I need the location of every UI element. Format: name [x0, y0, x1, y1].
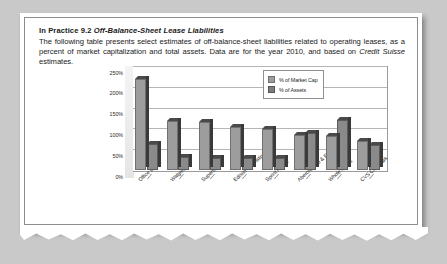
bar-market-cap	[199, 122, 210, 170]
y-tick-label: 100%	[110, 132, 123, 138]
bar-side-face	[146, 76, 149, 167]
body-text-part2: estimates.	[39, 57, 73, 66]
bar-side-face	[221, 155, 224, 167]
bar-side-face	[253, 155, 256, 167]
page-root: In Practice 9.2 Off-Balance-Sheet Lease …	[0, 0, 447, 264]
bar-front-face	[294, 135, 305, 170]
bar-side-face	[241, 124, 244, 167]
bar-front-face	[135, 79, 146, 170]
chart-legend: % of Market Cap % of Assets	[263, 70, 324, 99]
y-tick-label: 200%	[110, 90, 123, 96]
y-axis-labels: 250%200%150%100%50%0%	[95, 64, 125, 182]
bar-front-face	[167, 121, 178, 170]
bar-side-face	[337, 133, 340, 167]
legend-label-market-cap: % of Market Cap	[279, 77, 318, 83]
heading-title: Off-Balance-Sheet Lease Liabilities	[94, 26, 224, 35]
bar-market-cap	[167, 121, 178, 170]
bar-market-cap	[357, 141, 368, 170]
bar-front-face	[326, 136, 337, 170]
bar-market-cap	[230, 127, 241, 170]
bar-market-cap	[262, 129, 273, 170]
y-tick-label: 150%	[110, 111, 123, 117]
bar-side-face	[178, 118, 181, 167]
body-text-italic: Credit Suisse	[359, 47, 405, 56]
torn-paper-edge	[20, 227, 428, 245]
legend-label-assets: % of Assets	[279, 87, 306, 93]
bar-market-cap	[326, 136, 337, 170]
bar-side-face	[189, 154, 192, 167]
in-practice-box: In Practice 9.2 Off-Balance-Sheet Lease …	[24, 17, 418, 225]
body-text-part1: The following table presents select esti…	[39, 37, 405, 56]
legend-item-market-cap: % of Market Cap	[268, 75, 318, 84]
bar-front-face	[357, 141, 368, 170]
bar-front-face	[262, 129, 273, 170]
bar-side-face	[316, 130, 319, 167]
legend-swatch-icon-assets	[268, 86, 275, 93]
bar-side-face	[368, 138, 371, 167]
paper-sheet: In Practice 9.2 Off-Balance-Sheet Lease …	[20, 13, 422, 230]
heading-prefix: In Practice 9.2	[39, 26, 94, 35]
bar-side-face	[380, 142, 383, 167]
bar-side-face	[210, 119, 213, 167]
bar-market-cap	[294, 135, 305, 170]
bar-side-face	[305, 132, 308, 167]
bar-side-face	[348, 117, 351, 167]
bar-front-face	[230, 127, 241, 170]
bar-front-face	[199, 122, 210, 170]
y-tick-label: 250%	[110, 70, 123, 76]
bar-side-face	[273, 126, 276, 167]
text-block: In Practice 9.2 Off-Balance-Sheet Lease …	[39, 26, 405, 68]
box-heading: In Practice 9.2 Off-Balance-Sheet Lease …	[39, 26, 405, 36]
y-tick-label: 50%	[113, 153, 124, 159]
x-axis-labels: Office DepotWalgreenSupervaluEdison Inte…	[95, 176, 395, 216]
bar-chart: 250%200%150%100%50%0% Office DepotWalgre…	[95, 64, 395, 212]
legend-swatch-icon-market-cap	[268, 76, 275, 83]
bar-market-cap	[135, 79, 146, 170]
legend-item-assets: % of Assets	[268, 85, 318, 94]
bar-side-face	[285, 155, 288, 167]
bar-side-face	[158, 141, 161, 167]
